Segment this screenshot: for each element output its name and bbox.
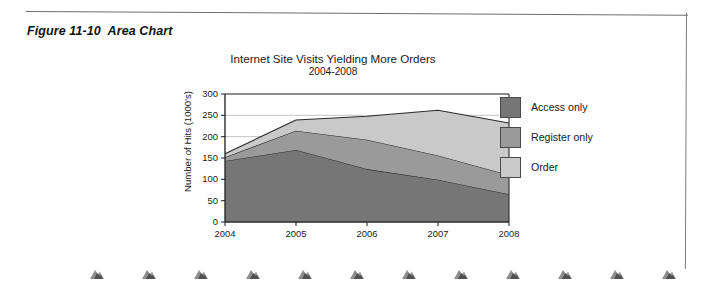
scan-speckle-icon (348, 266, 365, 279)
y-tick-label: 200 (192, 131, 218, 142)
chart-title: Internet Site Visits Yielding More Order… (178, 52, 488, 65)
scanned-page: Figure 11-10 Area Chart Internet Site Vi… (0, 0, 725, 292)
y-tick-label: 250 (192, 109, 218, 120)
legend-item: Order (500, 152, 640, 182)
plot-area: 05010015020025030020042005200620072008 (211, 92, 511, 237)
legend-item: Register only (500, 122, 640, 152)
legend-item: Access only (500, 92, 640, 122)
y-tick-label: 150 (192, 152, 218, 163)
x-tick-label: 2004 (204, 228, 246, 239)
page-right-edge-rule (685, 13, 687, 269)
y-tick-label: 0 (192, 216, 218, 227)
legend-swatch-icon (500, 157, 521, 178)
legend-item-label: Register only (531, 131, 593, 143)
scan-speckle-icon (452, 266, 469, 279)
scan-artifact-strip (0, 262, 725, 292)
x-tick-label: 2007 (417, 228, 459, 239)
legend-swatch-icon (500, 97, 521, 118)
chart-subtitle: 2004-2008 (178, 66, 488, 78)
x-tick-label: 2006 (346, 228, 388, 239)
x-tick-label: 2008 (488, 228, 530, 239)
page-top-rule (26, 11, 688, 16)
legend-item-label: Access only (531, 101, 588, 113)
legend-item-label: Order (531, 161, 558, 173)
scan-speckle-icon (660, 266, 677, 279)
legend-swatch-icon (500, 127, 521, 148)
figure-caption: Figure 11-10 Area Chart (27, 24, 173, 38)
y-tick-label: 100 (192, 173, 218, 184)
scan-speckle-icon (244, 266, 261, 279)
x-tick-label: 2005 (275, 228, 317, 239)
chart-legend: Access onlyRegister onlyOrder (500, 92, 640, 182)
scan-speckle-icon (88, 266, 105, 279)
scan-speckle-icon (608, 266, 625, 279)
y-tick-label: 300 (192, 88, 218, 99)
scan-speckle-icon (140, 266, 157, 279)
scan-speckle-icon (504, 266, 521, 279)
scan-speckle-icon (192, 266, 209, 279)
chart-canvas (211, 92, 511, 237)
scan-speckle-icon (296, 266, 313, 279)
y-tick-label: 50 (192, 195, 218, 206)
scan-speckle-icon (400, 266, 417, 279)
y-axis-title: Number of Hits (1000's) (182, 67, 193, 217)
area-chart: Internet Site Visits Yielding More Order… (178, 52, 648, 244)
scan-speckle-icon (556, 266, 573, 279)
